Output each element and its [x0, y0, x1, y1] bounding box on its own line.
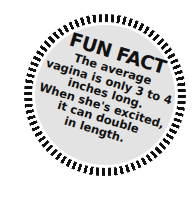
- fun-fact-badge: FUN FACT The average vagina is only 3 to…: [24, 14, 186, 176]
- badge-text-block: FUN FACT The average vagina is only 3 to…: [4, 0, 196, 196]
